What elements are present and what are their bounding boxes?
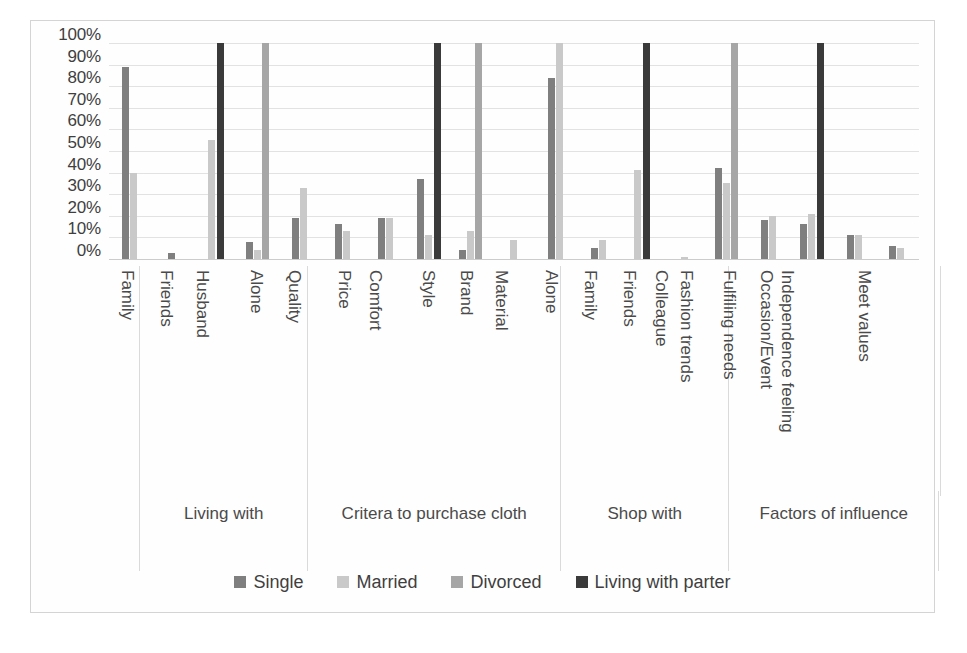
y-axis-tick-label: 40%: [31, 156, 101, 173]
chart-legend: SingleMarriedDivorcedLiving with parter: [31, 573, 934, 591]
bar[interactable]: [817, 43, 824, 259]
bar[interactable]: [246, 242, 253, 259]
category-slot: [706, 43, 749, 259]
bar[interactable]: [459, 250, 466, 259]
bar[interactable]: [217, 43, 224, 259]
category-slot: [322, 43, 365, 259]
category-slot: [578, 43, 621, 259]
category-axis-label: Occasion/Event: [758, 270, 775, 389]
category-axis-label: Alone: [249, 270, 266, 313]
bar[interactable]: [254, 250, 261, 259]
labels-row: AloneFamilyFriendsColleague: [561, 266, 729, 496]
bar[interactable]: [889, 246, 896, 259]
category-label-group: QualityPriceComfortStyleBrandMaterial: [307, 266, 561, 496]
bars-row: [535, 43, 706, 259]
category-axis-label: Meet values: [856, 270, 873, 362]
bar[interactable]: [425, 235, 432, 259]
legend-swatch-icon: [576, 576, 588, 588]
category-axis-label: Alone: [543, 270, 560, 313]
group-title-label: Shop with: [607, 503, 682, 524]
bar[interactable]: [343, 231, 350, 259]
category-slot: [407, 43, 450, 259]
bar[interactable]: [643, 43, 650, 259]
bar[interactable]: [300, 188, 307, 259]
category-slot: [152, 43, 195, 259]
bar[interactable]: [467, 231, 474, 259]
category-slot: [663, 43, 706, 259]
category-axis-label: Friends: [621, 270, 638, 327]
legend-item[interactable]: Living with parter: [576, 573, 731, 591]
legend-swatch-icon: [451, 576, 463, 588]
bar[interactable]: [761, 220, 768, 259]
category-axis-label: Comfort: [366, 270, 383, 330]
category-label-group: AloneFamilyFriendsColleague: [560, 266, 729, 496]
group-title-label: Living with: [184, 503, 263, 524]
bar[interactable]: [130, 173, 137, 259]
bar[interactable]: [335, 224, 342, 259]
category-label-band: FamilyFriendsHusbandAloneQualityPriceCom…: [139, 266, 939, 496]
category-slot: [109, 43, 152, 259]
legend-item[interactable]: Single: [234, 573, 303, 591]
legend-item[interactable]: Married: [337, 573, 417, 591]
group-title-cell: Critera to purchase cloth: [307, 491, 560, 571]
bar[interactable]: [292, 218, 299, 259]
bar-group: [706, 43, 919, 259]
category-label-slot: Occasion/Event: [814, 266, 856, 496]
bar[interactable]: [417, 179, 424, 259]
bar[interactable]: [681, 257, 688, 259]
category-axis-label: Fashion trends: [677, 270, 694, 382]
bar-group: [280, 43, 536, 259]
y-axis-tick-label: 80%: [31, 69, 101, 86]
category-slot: [535, 43, 578, 259]
bar[interactable]: [510, 240, 517, 259]
bar-group: [535, 43, 706, 259]
legend-swatch-icon: [337, 576, 349, 588]
y-axis-tick-label: 30%: [31, 177, 101, 194]
bar[interactable]: [769, 216, 776, 259]
bar[interactable]: [599, 240, 606, 259]
category-slot: [450, 43, 493, 259]
bar[interactable]: [731, 43, 738, 259]
chart-frame: 100%90%80%70%60%50%40%30%20%10%0% Family…: [30, 20, 935, 613]
y-axis-tick-label: 60%: [31, 112, 101, 129]
plot-area: [109, 43, 919, 259]
legend-label: Single: [253, 573, 303, 591]
bars-row: [706, 43, 919, 259]
bar[interactable]: [897, 248, 904, 259]
category-axis-label: Colleague: [653, 270, 670, 347]
bar[interactable]: [434, 43, 441, 259]
category-axis-label: Family: [119, 270, 136, 320]
category-axis-label: Price: [335, 270, 352, 309]
legend-label: Married: [356, 573, 417, 591]
bar[interactable]: [847, 235, 854, 259]
bar[interactable]: [855, 235, 862, 259]
bars-row: [109, 43, 280, 259]
category-axis-label: Independence feeling: [779, 270, 796, 433]
bar[interactable]: [386, 218, 393, 259]
bar[interactable]: [208, 140, 215, 259]
legend-item[interactable]: Divorced: [451, 573, 541, 591]
bar[interactable]: [634, 170, 641, 259]
bar[interactable]: [715, 168, 722, 259]
bar[interactable]: [168, 253, 175, 259]
category-slot: [791, 43, 834, 259]
category-slot: [876, 43, 919, 259]
bar[interactable]: [548, 78, 555, 259]
labels-row: QualityPriceComfortStyleBrandMaterial: [308, 266, 561, 496]
y-axis-tick-label: 100%: [31, 26, 101, 43]
group-title-band: Living withCritera to purchase clothShop…: [139, 491, 939, 571]
bar[interactable]: [591, 248, 598, 259]
category-slot: [621, 43, 664, 259]
bar[interactable]: [378, 218, 385, 259]
bar[interactable]: [723, 183, 730, 259]
category-axis-label: Friends: [158, 270, 175, 327]
group-title-label: Factors of influence: [760, 503, 908, 524]
bar[interactable]: [556, 43, 563, 259]
category-axis-label: Brand: [458, 270, 475, 315]
bar[interactable]: [808, 214, 815, 259]
bar[interactable]: [475, 43, 482, 259]
bar[interactable]: [800, 224, 807, 259]
bar[interactable]: [262, 43, 269, 259]
category-slot: [834, 43, 877, 259]
bar[interactable]: [122, 67, 129, 259]
